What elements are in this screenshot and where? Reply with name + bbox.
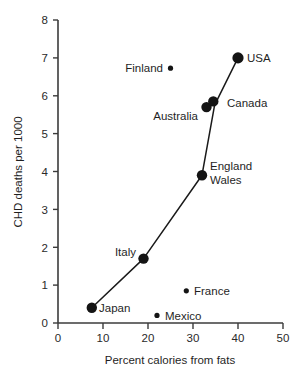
chd-scatter-chart: 0 1 2 3 4 5 6 7 8 0 10 20 30 40 50 Perce…: [0, 0, 302, 377]
point-label-wales: Wales: [210, 174, 242, 186]
y-tick-label-1: 1: [42, 279, 48, 291]
data-point-england-wales[interactable]: [197, 170, 207, 180]
y-tick-labels: 0 1 2 3 4 5 6 7 8: [42, 14, 49, 329]
x-tick-marks: [58, 323, 283, 329]
data-point-mexico[interactable]: [154, 313, 159, 318]
x-tick-label-50: 50: [277, 332, 290, 344]
plot-area: 0 1 2 3 4 5 6 7 8 0 10 20 30 40 50 Perce…: [0, 0, 302, 377]
point-label-usa: USA: [247, 52, 271, 64]
y-tick-label-8: 8: [42, 14, 48, 26]
x-tick-labels: 0 10 20 30 40 50: [55, 332, 290, 344]
point-label-france: France: [194, 285, 230, 297]
x-tick-label-30: 30: [187, 332, 200, 344]
x-tick-label-40: 40: [232, 332, 245, 344]
data-point-usa[interactable]: [232, 52, 243, 63]
data-point-italy[interactable]: [138, 253, 148, 263]
point-label-japan: Japan: [99, 302, 130, 314]
point-label-england: England: [210, 160, 252, 172]
y-tick-label-4: 4: [42, 166, 49, 178]
y-tick-label-7: 7: [42, 52, 48, 64]
x-tick-label-20: 20: [142, 332, 155, 344]
point-label-canada: Canada: [227, 97, 268, 109]
data-point-canada[interactable]: [208, 96, 218, 106]
point-label-mexico: Mexico: [165, 310, 201, 322]
data-point-france[interactable]: [184, 288, 189, 293]
point-label-finland: Finland: [125, 62, 163, 74]
x-axis-title: Percent calories from fats: [105, 354, 236, 366]
point-label-group: Japan Italy England Wales Australia Cana…: [99, 52, 271, 322]
point-label-australia: Australia: [153, 110, 198, 122]
y-axis-title: CHD deaths per 1000: [12, 116, 24, 227]
x-tick-label-0: 0: [55, 332, 61, 344]
y-tick-label-5: 5: [42, 128, 48, 140]
y-tick-label-2: 2: [42, 242, 48, 254]
data-point-finland[interactable]: [168, 66, 173, 71]
x-tick-label-10: 10: [97, 332, 110, 344]
y-tick-label-0: 0: [42, 317, 48, 329]
data-point-japan[interactable]: [87, 303, 97, 313]
point-label-italy: Italy: [115, 246, 136, 258]
y-tick-label-6: 6: [42, 90, 48, 102]
y-tick-label-3: 3: [42, 204, 48, 216]
